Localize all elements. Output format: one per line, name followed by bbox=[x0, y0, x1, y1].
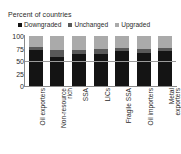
y-tick-75: 75 bbox=[0, 45, 24, 52]
x-axis-label-2: Non-resourcerich bbox=[61, 88, 73, 150]
y-axis-ticks: 100 75 50 25 0 bbox=[0, 36, 24, 86]
chart-legend: Downgraded Unchanged Upgraded bbox=[18, 20, 176, 30]
x-axis-labels: Oil exportersNon-resourcerichSSALICsFrag… bbox=[25, 88, 176, 152]
legend-label-upgraded: Upgraded bbox=[121, 22, 150, 29]
legend-label-downgraded: Downgraded bbox=[24, 22, 61, 29]
legend-item-upgraded[interactable]: Upgraded bbox=[115, 22, 150, 29]
x-axis-label-1: Oil exporters bbox=[40, 88, 52, 150]
legend-swatch-unchanged bbox=[68, 23, 72, 27]
bar-segment-upgraded bbox=[29, 36, 43, 47]
x-axis-label-line: exporters bbox=[176, 88, 181, 150]
bar-segment-downgraded bbox=[72, 54, 86, 87]
bar-segment-downgraded bbox=[158, 51, 172, 87]
x-axis-label-line: SSA bbox=[83, 88, 89, 150]
bar-segment-upgraded bbox=[158, 36, 172, 48]
x-axis-label-6: Oil importers bbox=[148, 88, 160, 150]
x-axis-label-line: Oil exporters bbox=[40, 88, 46, 150]
y-tick-25: 25 bbox=[0, 70, 24, 77]
legend-swatch-downgraded bbox=[18, 23, 22, 27]
x-axis-label-line: Fragile SSA bbox=[126, 88, 132, 150]
legend-swatch-upgraded bbox=[115, 23, 119, 27]
x-axis-label-5: Fragile SSA bbox=[126, 88, 138, 150]
bar-segment-downgraded bbox=[115, 51, 129, 87]
bar-segment-upgraded bbox=[72, 36, 86, 50]
x-axis-label-7: Metalexporters bbox=[169, 88, 181, 150]
legend-label-unchanged: Unchanged bbox=[74, 22, 108, 29]
y-tick-50: 50 bbox=[0, 58, 24, 65]
bar-segment-upgraded bbox=[94, 36, 108, 49]
bar-segment-unchanged bbox=[50, 50, 64, 57]
x-axis-label-line: LICs bbox=[105, 88, 111, 150]
x-axis-label-4: LICs bbox=[105, 88, 117, 150]
x-axis-label-line: rich bbox=[68, 88, 74, 150]
bar-segment-downgraded bbox=[94, 54, 108, 86]
bar-segment-upgraded bbox=[115, 36, 129, 48]
y-tick-100: 100 bbox=[0, 33, 24, 40]
legend-item-downgraded[interactable]: Downgraded bbox=[18, 22, 61, 29]
y-axis-title: Percent of countries bbox=[8, 11, 72, 18]
x-axis-label-line: Oil importers bbox=[148, 88, 154, 150]
bar-segment-downgraded bbox=[29, 50, 43, 87]
x-axis-label-3: SSA bbox=[83, 88, 95, 150]
chart-container: Percent of countries Downgraded Unchange… bbox=[0, 0, 181, 154]
reference-line-50 bbox=[25, 61, 176, 62]
bar-segment-downgraded bbox=[137, 53, 151, 86]
bar-segment-upgraded bbox=[50, 36, 64, 50]
bar-segment-upgraded bbox=[137, 36, 151, 49]
y-tick-0: 0 bbox=[0, 83, 24, 90]
x-axis-line bbox=[24, 86, 177, 87]
legend-item-unchanged[interactable]: Unchanged bbox=[68, 22, 108, 29]
